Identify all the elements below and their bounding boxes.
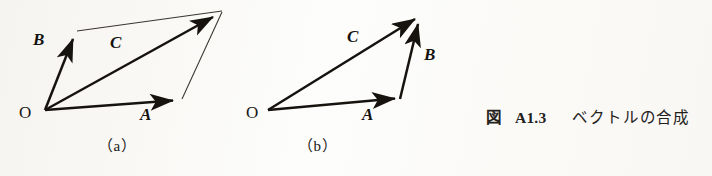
caption-fig-word: 図 (486, 109, 502, 126)
origin-label-panel-a: O (19, 104, 31, 121)
vector-b-arrow-panel-b (400, 24, 418, 99)
construction-line-top (77, 11, 222, 31)
vector-b-arrow-panel-a (45, 39, 73, 110)
vector-label-b-panel-b: B (424, 46, 435, 63)
caption-text: ベクトルの合成 (572, 109, 690, 126)
vector-label-a-panel-b: A (362, 106, 373, 123)
vector-label-a-panel-a: A (140, 106, 151, 123)
vector-a-arrow-panel-b (268, 99, 395, 111)
vector-label-c-panel-a: C (110, 34, 121, 51)
vector-c-arrow-panel-b (268, 19, 415, 110)
vector-a-arrow-panel-a (45, 101, 173, 111)
sub-caption-panel-a: （a） (98, 139, 136, 154)
panel-b-vectors (268, 19, 418, 110)
origin-label-panel-b: O (246, 104, 258, 121)
vector-label-c-panel-b: C (347, 28, 358, 45)
caption-number: A1.3 (515, 109, 546, 126)
figure-caption: 図A1.3ベクトルの合成 (486, 110, 690, 126)
vector-c-arrow-panel-a (45, 17, 213, 110)
sub-caption-panel-b: （b） (298, 139, 337, 154)
vector-label-b-panel-a: B (33, 31, 44, 48)
figure-page: O A B C （a） O A B C （b） 図A1.3ベクトルの合成 (0, 0, 712, 176)
panel-a-vectors (45, 17, 213, 110)
construction-line-right (182, 12, 222, 99)
